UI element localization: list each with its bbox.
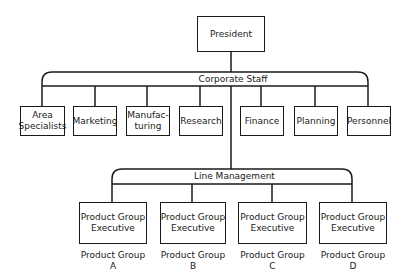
exec-label-line: Product Group [240, 212, 304, 223]
exec-label-line: Executive [251, 223, 295, 234]
product-group-executive-b: Product Group Executive [160, 202, 226, 244]
exec-label-line: Product Group [81, 212, 145, 223]
group-label-line: Product Group [319, 250, 387, 261]
staff-label-line: Specialists [19, 121, 67, 132]
staff-label-line: turing [135, 121, 162, 132]
president-box: President [197, 16, 265, 52]
staff-box-area-specialists: Area Specialists [20, 106, 65, 136]
staff-label-line: Marketing [73, 116, 118, 127]
staff-box-finance: Finance [240, 106, 284, 136]
product-group-b-label: Product Group B [160, 250, 226, 272]
exec-label-line: Executive [171, 223, 215, 234]
group-letter: C [238, 261, 307, 272]
product-group-executive-d: Product Group Executive [319, 202, 387, 244]
staff-label-line: Research [180, 116, 221, 127]
staff-label-line: Area [32, 110, 53, 121]
product-group-a-label: Product Group A [79, 250, 147, 272]
exec-label-line: Product Group [321, 212, 385, 223]
staff-label-line: Personnel [347, 116, 391, 127]
group-letter: D [319, 261, 387, 272]
product-group-executive-c: Product Group Executive [238, 202, 307, 244]
president-label: President [210, 29, 252, 40]
corporate-staff-label: Corporate Staff [198, 74, 268, 85]
staff-label-line: Planning [297, 116, 336, 127]
group-label-line: Product Group [79, 250, 147, 261]
staff-box-research: Research [179, 106, 223, 136]
exec-label-line: Product Group [161, 212, 225, 223]
exec-label-line: Executive [91, 223, 135, 234]
staff-box-manufacturing: Manufac- turing [126, 106, 170, 136]
staff-box-marketing: Marketing [73, 106, 117, 136]
group-label-line: Product Group [160, 250, 226, 261]
product-group-c-label: Product Group C [238, 250, 307, 272]
product-group-d-label: Product Group D [319, 250, 387, 272]
staff-label-line: Manufac- [127, 110, 169, 121]
product-group-executive-a: Product Group Executive [79, 202, 147, 244]
staff-label-line: Finance [245, 116, 279, 127]
group-letter: A [79, 261, 147, 272]
staff-box-planning: Planning [294, 106, 338, 136]
exec-label-line: Executive [331, 223, 375, 234]
staff-box-personnel: Personnel [347, 106, 391, 136]
group-label-line: Product Group [238, 250, 307, 261]
group-letter: B [160, 261, 226, 272]
line-management-label: Line Management [194, 171, 270, 182]
